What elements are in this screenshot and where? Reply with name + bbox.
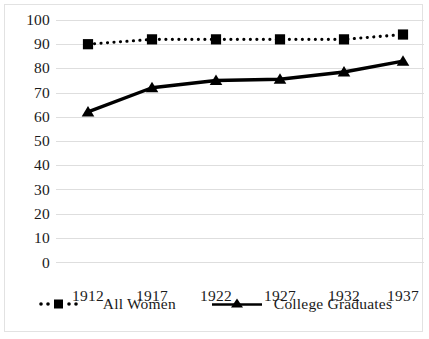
y-axis-tick-labels: 100 90 80 70 60 50 40 30 20 10 0 [0,0,50,282]
y-tick-label: 50 [6,133,50,149]
series-college-graduates [82,55,410,116]
chart-legend: All Women College Graduates [0,296,429,312]
y-tick-label: 90 [6,36,50,52]
chart-container: 100 90 80 70 60 50 40 30 20 10 0 1912 19… [0,0,429,339]
y-tick-label: 20 [6,206,50,222]
legend-label: College Graduates [274,296,392,312]
y-tick-label: 0 [6,255,50,271]
series-all-women [83,29,408,49]
dotted-line-square-marker-icon [37,297,97,311]
y-tick-label: 80 [6,60,50,76]
y-tick-label: 40 [6,157,50,173]
legend-item-all-women: All Women [37,296,176,312]
y-tick-label: 30 [6,182,50,198]
y-tick-label: 70 [6,85,50,101]
legend-item-college-graduates: College Graduates [210,296,392,312]
y-tick-label: 100 [6,12,50,28]
y-tick-label: 60 [6,109,50,125]
solid-line-triangle-marker-icon [210,297,268,311]
series-layer [56,20,429,270]
y-tick-label: 10 [6,230,50,246]
plot-area: 1912 1917 1922 1927 1932 1937 [56,20,429,262]
legend-label: All Women [103,296,176,312]
